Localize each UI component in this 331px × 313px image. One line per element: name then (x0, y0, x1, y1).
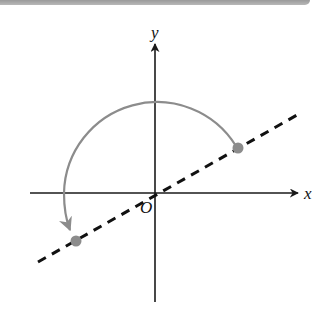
point-start (233, 143, 244, 154)
y-axis-label: y (149, 23, 159, 42)
coordinate-diagram: y x O (0, 0, 331, 313)
point-end (71, 236, 82, 247)
x-axis-label: x (303, 184, 312, 203)
origin-label: O (140, 198, 152, 217)
